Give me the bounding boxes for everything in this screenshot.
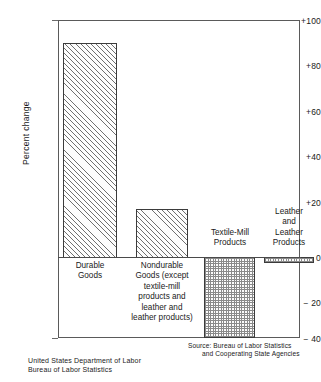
y-tick-mark-neg40 xyxy=(52,338,58,339)
label-line: Nondurable xyxy=(117,261,207,271)
label-line: Durable xyxy=(56,261,124,271)
label-line: products and xyxy=(117,292,207,302)
bar-textile-mill-products xyxy=(204,257,255,338)
bar-nondurable-goods xyxy=(136,209,188,258)
chart-figure: Percent change +100 +80 +60 +40 +20 0 − … xyxy=(0,0,321,382)
label-line: Leather xyxy=(256,228,321,238)
label-line: Textile-Mill xyxy=(196,228,264,238)
category-label-leather-products: Leather and Leather Products xyxy=(256,207,321,249)
label-line: Leather xyxy=(256,207,321,217)
label-line: Goods xyxy=(56,271,124,281)
label-line: Goods (except xyxy=(117,271,207,281)
label-line: Products xyxy=(256,238,321,248)
agency-line-2: Bureau of Labor Statistics xyxy=(28,366,141,375)
zero-reference-line xyxy=(58,257,301,258)
category-label-textile-mill-products: Textile-Mill Products xyxy=(196,228,264,249)
label-line: and xyxy=(256,217,321,227)
label-line: Products xyxy=(196,238,264,248)
category-label-nondurable-goods: Nondurable Goods (except textile-mill pr… xyxy=(117,261,207,323)
source-line-2: and Cooperating State Agencies xyxy=(188,350,300,358)
source-line-1: Source: Bureau of Labor Statistics xyxy=(188,342,300,350)
y-axis-title: Percent change xyxy=(21,83,31,183)
label-line: textile-mill xyxy=(117,282,207,292)
label-line: leather and xyxy=(117,303,207,313)
source-note: Source: Bureau of Labor Statistics and C… xyxy=(188,342,300,359)
label-line: leather products) xyxy=(117,313,207,323)
bar-durable-goods xyxy=(63,43,117,258)
category-label-durable-goods: Durable Goods xyxy=(56,261,124,282)
agency-line-1: United States Department of Labor xyxy=(28,357,141,366)
agency-attribution: United States Department of Labor Bureau… xyxy=(28,357,141,375)
